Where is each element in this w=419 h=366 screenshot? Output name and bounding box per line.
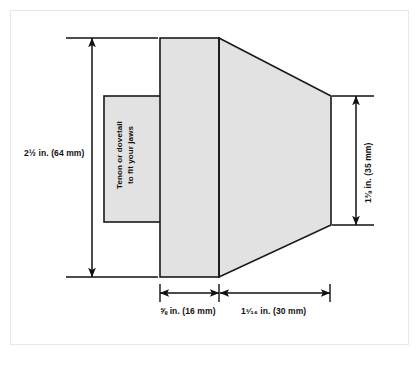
tenon-annotation-line-1: Tenon or dovetail	[115, 107, 126, 203]
diagram-canvas: 2½ in. (64 mm) ⅝ in. (16 mm) 1³⁄₁₆ in. (…	[0, 0, 419, 366]
tapered-body	[219, 38, 331, 277]
dimension-label-overall-height: 2½ in. (64 mm)	[24, 148, 84, 158]
dimension-label-flange-width: ⅝ in. (16 mm)	[160, 306, 216, 316]
flange-block	[160, 38, 219, 277]
dimension-label-taper-width: 1³⁄₁₆ in. (30 mm)	[241, 306, 306, 316]
tenon-annotation-line-2: to fit your jaws	[126, 107, 137, 203]
tenon-annotation: Tenon or dovetail to fit your jaws	[115, 107, 136, 203]
dimension-label-small-end-height: 1⅜ in. (35 mm)	[363, 143, 373, 203]
